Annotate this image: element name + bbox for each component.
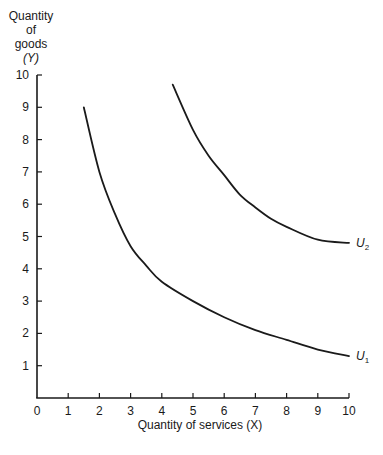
x-tick-label: 3	[127, 404, 134, 418]
y-tick-label: 7	[22, 165, 29, 179]
x-tick-label: 6	[221, 404, 228, 418]
x-tick-label: 10	[342, 404, 356, 418]
y-axis-label: Quantity of goods (Y)	[0, 9, 62, 65]
x-tick-label: 0	[34, 404, 41, 418]
y-tick-label: 8	[22, 133, 29, 147]
curve-labels: U1U2	[356, 236, 370, 365]
x-tick-label: 2	[96, 404, 103, 418]
y-tick-label: 3	[22, 294, 29, 308]
y-axis-label-line: of	[0, 23, 62, 37]
y-axis-label-line: Quantity	[0, 9, 62, 23]
x-tick-label: 5	[190, 404, 197, 418]
x-axis-label: Quantity of services (X)	[80, 418, 320, 432]
y-tick-label: 5	[22, 230, 29, 244]
x-tick-label: 9	[314, 404, 321, 418]
y-tick-label: 2	[22, 326, 29, 340]
y-tick-label: 4	[22, 262, 29, 276]
curves	[84, 85, 349, 356]
y-tick-label: 9	[22, 100, 29, 114]
x-tick-label: 1	[65, 404, 72, 418]
x-tick-label: 4	[158, 404, 165, 418]
axes	[36, 75, 349, 398]
y-axis-label-line: goods	[0, 37, 62, 51]
curve-u1	[84, 107, 349, 356]
indifference-curve-chart: 01234567891012345678910 U1U2	[0, 0, 383, 455]
y-axis-label-line: (Y)	[0, 51, 62, 65]
x-tick-label: 8	[283, 404, 290, 418]
curve-label-u1: U1	[356, 349, 370, 365]
axis-ticks: 01234567891012345678910	[16, 68, 356, 418]
y-tick-label: 10	[16, 68, 30, 82]
curve-label-u2: U2	[356, 236, 370, 252]
y-tick-label: 6	[22, 197, 29, 211]
y-tick-label: 1	[22, 359, 29, 373]
curve-u2	[173, 85, 349, 243]
x-tick-label: 7	[252, 404, 259, 418]
